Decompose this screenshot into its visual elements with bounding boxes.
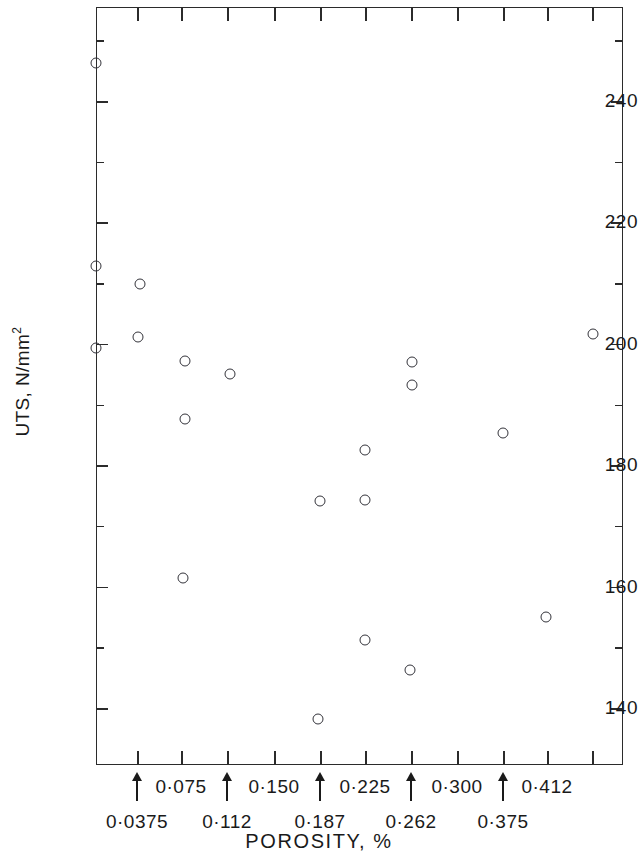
y-axis-tick-major xyxy=(96,222,108,224)
arrow-shaft xyxy=(136,779,138,801)
x-axis-tick-top xyxy=(320,7,322,21)
x-axis-tick-top xyxy=(411,7,413,21)
x-axis-tick xyxy=(592,751,594,765)
y-axis-tick-minor xyxy=(96,283,104,285)
x-axis-tick xyxy=(457,751,459,765)
x-axis-tick-top xyxy=(547,7,549,21)
x-axis-tick-top xyxy=(274,7,276,21)
y-axis-title-exponent: 2 xyxy=(10,327,24,334)
data-point xyxy=(91,261,102,272)
y-axis-tick-minor xyxy=(96,405,104,407)
y-axis-tick-minor-right xyxy=(615,405,623,407)
y-axis-tick-minor-right xyxy=(615,283,623,285)
x-axis-tick xyxy=(320,751,322,765)
x-axis-tick xyxy=(411,751,413,765)
x-axis-title: POROSITY, % xyxy=(0,830,638,853)
x-axis-tick-label-upper: 0·150 xyxy=(248,776,299,798)
data-point xyxy=(91,343,102,354)
y-axis-tick-label: 220 xyxy=(554,211,638,233)
x-axis-tick-label-upper: 0·412 xyxy=(521,776,572,798)
y-axis-title: UTS, N/mm2 xyxy=(10,272,33,492)
data-point xyxy=(360,495,371,506)
x-axis-tick-top xyxy=(592,7,594,21)
arrow-shaft xyxy=(410,779,412,801)
arrow-shaft xyxy=(502,779,504,801)
data-point xyxy=(313,714,324,725)
arrow-shaft xyxy=(319,779,321,801)
y-axis-tick-label: 180 xyxy=(554,454,638,476)
y-axis-tick-major xyxy=(96,708,108,710)
data-point xyxy=(91,58,102,69)
x-axis-tick xyxy=(137,751,139,765)
data-point xyxy=(407,357,418,368)
x-axis-tick-top xyxy=(227,7,229,21)
data-point xyxy=(178,573,189,584)
y-axis-title-text: UTS, N/mm xyxy=(12,334,33,437)
x-axis-tick-label-upper: 0·225 xyxy=(339,776,390,798)
data-point xyxy=(225,369,236,380)
x-axis-tick xyxy=(274,751,276,765)
x-axis-tick-top xyxy=(365,7,367,21)
data-point xyxy=(180,356,191,367)
x-axis-tick xyxy=(547,751,549,765)
data-point xyxy=(360,445,371,456)
x-axis-tick xyxy=(365,751,367,765)
y-axis-tick-label: 240 xyxy=(554,90,638,112)
x-axis-tick-top xyxy=(181,7,183,21)
x-axis-tick-top xyxy=(457,7,459,21)
y-axis-tick-major xyxy=(96,101,108,103)
y-axis-tick-minor xyxy=(96,162,104,164)
data-point xyxy=(315,496,326,507)
x-axis-tick-label-upper: 0·075 xyxy=(155,776,206,798)
x-axis-tick xyxy=(181,751,183,765)
y-axis-tick-label: 160 xyxy=(554,576,638,598)
y-axis-tick-label: 140 xyxy=(554,697,638,719)
y-axis-tick-minor-right xyxy=(615,162,623,164)
y-axis-tick-minor-right xyxy=(615,40,623,42)
y-axis-tick-minor xyxy=(96,40,104,42)
y-axis-tick-minor xyxy=(96,647,104,649)
scatter-plot-figure: UTS, N/mm2 1401601802002202400·0750·1500… xyxy=(0,0,638,856)
arrow-shaft xyxy=(226,779,228,801)
y-axis-tick-major xyxy=(96,465,108,467)
x-axis-tick-label-upper: 0·300 xyxy=(431,776,482,798)
x-axis-tick xyxy=(503,751,505,765)
data-point xyxy=(588,329,599,340)
y-axis-tick-minor-right xyxy=(615,526,623,528)
x-axis-tick-top xyxy=(137,7,139,21)
plot-frame xyxy=(96,7,623,765)
data-point xyxy=(407,380,418,391)
y-axis-tick-minor-right xyxy=(615,647,623,649)
data-point xyxy=(180,414,191,425)
x-axis-tick-top xyxy=(503,7,505,21)
data-point xyxy=(360,635,371,646)
data-point xyxy=(405,665,416,676)
y-axis-tick-major xyxy=(96,587,108,589)
data-point xyxy=(133,332,144,343)
data-point xyxy=(498,428,509,439)
y-axis-tick-minor xyxy=(96,526,104,528)
data-point xyxy=(541,612,552,623)
x-axis-tick xyxy=(227,751,229,765)
data-point xyxy=(135,279,146,290)
